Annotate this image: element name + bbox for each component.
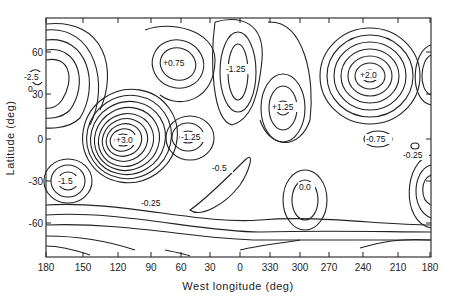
contour-value-label: -1.25 xyxy=(181,132,201,142)
x-axis-tick-labels: 1801501209060300330300270240210180 xyxy=(38,262,439,273)
contour-value-label: -2.5 xyxy=(24,72,39,82)
contour-value-label: -0.5 xyxy=(212,163,227,173)
contour-value-label: +0.75 xyxy=(163,58,185,68)
y-tick-label: 60 xyxy=(32,47,44,58)
contour-chart: -2.50+0.75-1.25+1.25+2.0+3.0-1.25-0.75-0… xyxy=(0,0,450,302)
x-tick-label: 180 xyxy=(38,262,55,273)
x-tick-label: 0 xyxy=(237,262,243,273)
x-tick-label: 210 xyxy=(390,262,407,273)
y-axis-title: Latitude (deg) xyxy=(4,101,16,176)
y-tick-label: -30 xyxy=(29,176,44,187)
x-tick-label: 120 xyxy=(110,262,127,273)
x-tick-label: 150 xyxy=(75,262,92,273)
contour-value-label: +1.25 xyxy=(272,102,294,112)
contour-value-label: +2.0 xyxy=(360,70,377,80)
x-tick-label: 300 xyxy=(292,262,309,273)
x-tick-label: 90 xyxy=(145,262,157,273)
x-tick-label: 30 xyxy=(204,262,216,273)
x-tick-label: 270 xyxy=(321,262,338,273)
y-tick-label: 30 xyxy=(32,89,44,100)
x-tick-label: 330 xyxy=(262,262,279,273)
contour-value-label: -0.75 xyxy=(366,134,386,144)
contour-value-label: -1.25 xyxy=(226,64,246,74)
contour-value-label: -1.5 xyxy=(58,176,73,186)
x-tick-label: 240 xyxy=(355,262,372,273)
contour-value-label: -0.25 xyxy=(141,198,161,208)
y-tick-label: 0 xyxy=(37,134,43,145)
contour-value-label: 0.0 xyxy=(299,182,311,192)
x-tick-label: 180 xyxy=(422,262,439,273)
y-tick-label: -60 xyxy=(29,218,44,229)
x-axis-title: West longitude (deg) xyxy=(182,280,293,292)
x-tick-label: 60 xyxy=(175,262,187,273)
contour-value-label: +3.0 xyxy=(116,135,133,145)
contour-value-label: -0.25 xyxy=(403,150,423,160)
